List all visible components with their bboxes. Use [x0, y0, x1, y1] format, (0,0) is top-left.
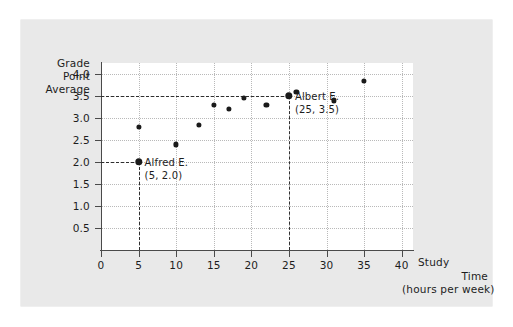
y-axis-title: Grade Point Average: [0, 57, 90, 97]
gridline-horizontal-0.5: [101, 228, 413, 229]
y-axis-title-line-1: Grade: [57, 57, 90, 69]
y-tick-3.0: [95, 118, 101, 119]
x-axis-title-line-2: Time: [418, 270, 488, 284]
annotation-coords: (25, 3.5): [295, 104, 339, 117]
x-tick-0: [101, 251, 102, 257]
x-tick-label-40: 40: [382, 259, 422, 271]
x-tick-label-0: 0: [81, 259, 121, 271]
gridline-horizontal-1.0: [101, 206, 413, 207]
gridline-vertical-35: [364, 63, 365, 250]
y-tick-1.0: [95, 206, 101, 207]
x-tick-25: [289, 251, 290, 257]
y-axis-title-line-3: Average: [45, 83, 90, 95]
y-tick-3.5: [95, 96, 101, 97]
x-axis-title-line-3: (hours per week): [402, 283, 472, 297]
x-tick-label-15: 15: [194, 259, 234, 271]
gridline-vertical-40: [402, 63, 403, 250]
x-tick-label-5: 5: [119, 259, 159, 271]
gridline-horizontal-2.5: [101, 140, 413, 141]
gridline-horizontal-3.5: [101, 96, 413, 97]
y-tick-0.5: [95, 228, 101, 229]
x-tick-15: [214, 251, 215, 257]
y-tick-1.5: [95, 184, 101, 185]
y-tick-label-2.5: 2.5: [73, 134, 90, 146]
x-tick-10: [176, 251, 177, 257]
x-tick-35: [364, 251, 365, 257]
annotation-coords: (5, 2.0): [145, 170, 189, 183]
gridline-horizontal-4.0: [101, 74, 413, 75]
annotation-name: Alfred E.: [145, 157, 189, 170]
x-tick-40: [402, 251, 403, 257]
x-tick-20: [251, 251, 252, 257]
gridline-vertical-25: [289, 63, 290, 250]
x-tick-label-35: 35: [344, 259, 384, 271]
x-tick-label-10: 10: [156, 259, 196, 271]
gridline-vertical-20: [251, 63, 252, 250]
x-tick-label-30: 30: [307, 259, 347, 271]
annotation-alfred-e: Alfred E.(5, 2.0): [145, 157, 189, 182]
x-tick-5: [139, 251, 140, 257]
scatter-plot-figure: 0.51.01.52.02.53.03.54.0 051015202530354…: [0, 0, 513, 327]
x-axis-title-line-1: Study: [418, 256, 449, 268]
annotation-albert-e: Albert E.(25, 3.5): [295, 91, 339, 116]
x-tick-30: [327, 251, 328, 257]
gridline-horizontal-3.0: [101, 118, 413, 119]
y-tick-4.0: [95, 74, 101, 75]
y-tick-2.5: [95, 140, 101, 141]
annotation-name: Albert E.: [295, 91, 339, 104]
y-tick-label-2.0: 2.0: [73, 156, 90, 168]
gridline-vertical-5: [139, 63, 140, 250]
x-axis-line: [100, 250, 414, 251]
y-axis-line: [101, 62, 102, 251]
gridline-vertical-15: [214, 63, 215, 250]
x-axis-title: Study Time (hours per week): [418, 256, 513, 297]
y-tick-label-1.5: 1.5: [73, 178, 90, 190]
x-tick-label-25: 25: [269, 259, 309, 271]
y-tick-label-1.0: 1.0: [73, 200, 90, 212]
y-tick-label-3.0: 3.0: [73, 112, 90, 124]
y-tick-2.0: [95, 162, 101, 163]
x-tick-label-20: 20: [231, 259, 271, 271]
y-axis-title-line-2: Point: [63, 70, 90, 82]
y-tick-label-0.5: 0.5: [73, 222, 90, 234]
gridline-horizontal-1.5: [101, 184, 413, 185]
